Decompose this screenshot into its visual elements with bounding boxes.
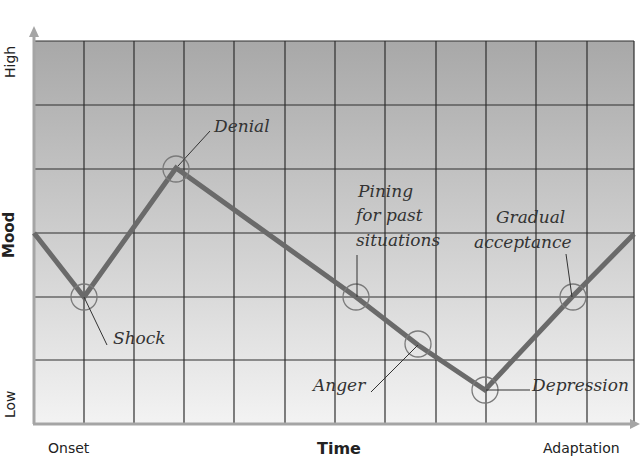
label-depression: Depression [532,376,629,395]
label-denial: Denial [214,117,270,136]
label-pining-line2: for past [356,206,423,225]
label-pining-line1: Pining [358,182,413,201]
label-shock: Shock [113,329,166,348]
y-tick-high: High [2,46,18,78]
x-tick-adaptation: Adaptation [543,440,620,456]
label-pining-line3: situations [356,231,440,250]
x-tick-onset: Onset [48,440,89,456]
y-axis-title: Mood [0,212,18,258]
label-anger: Anger [313,376,365,395]
label-acceptance: acceptance [474,233,572,252]
x-axis-title: Time [317,439,361,458]
y-tick-low: Low [2,390,18,418]
label-gradual: Gradual [496,208,565,227]
